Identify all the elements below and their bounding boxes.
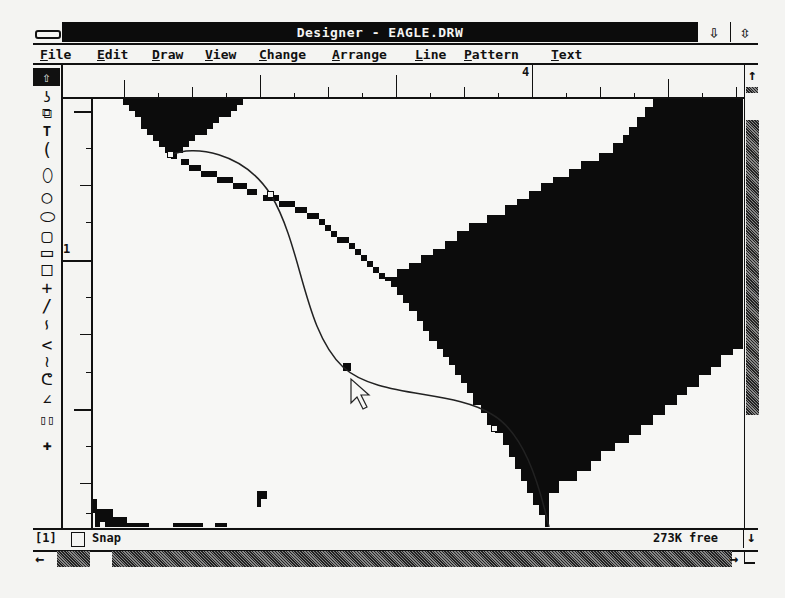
memory-free: 273K free — [653, 531, 718, 545]
tool-line[interactable]: / — [35, 299, 59, 313]
menu-draw[interactable]: Draw — [152, 45, 183, 64]
maximize-button[interactable]: ⇳ — [730, 22, 759, 42]
scroll-up-button[interactable]: ↑ — [745, 65, 759, 85]
tool-ellipse[interactable]: ⬯ — [35, 168, 59, 182]
arrow-left-icon: ← — [35, 550, 44, 568]
menu-file[interactable]: File — [40, 45, 71, 64]
ruler-top: 4 — [62, 65, 742, 97]
menu-bar — [33, 45, 758, 64]
horizontal-scrollbar[interactable]: ← → — [33, 550, 758, 570]
mouse-cursor-icon — [351, 379, 369, 409]
tool-freehand[interactable]: ᕦ — [35, 373, 59, 387]
tool-rounded-rect[interactable]: ⬭ — [35, 210, 59, 224]
ruler-left: 1 — [62, 97, 92, 527]
scroll-left-button[interactable]: ← — [35, 550, 44, 568]
tool-connector[interactable]: ʖ — [35, 90, 59, 104]
up-down-arrow-icon: ⇳ — [740, 22, 750, 42]
ruler-left-label: 1 — [63, 242, 70, 256]
hscroll-track-left[interactable] — [57, 551, 90, 567]
down-arrow-icon: ⇩ — [709, 22, 719, 42]
tool-rectangle[interactable]: ▭ — [35, 245, 59, 259]
arrow-right-icon: → — [729, 550, 738, 568]
scroll-thumb[interactable] — [746, 87, 758, 93]
snap-checkbox[interactable] — [71, 532, 85, 547]
menu-line[interactable]: Line — [415, 45, 446, 64]
tool-zoom[interactable]: ✚ — [35, 438, 59, 452]
tool-group[interactable]: ⧉ — [35, 106, 59, 120]
menu-edit[interactable]: Edit — [97, 45, 128, 64]
size-grip[interactable] — [744, 550, 755, 564]
menu-view[interactable]: View — [205, 45, 236, 64]
tool-polygon[interactable]: ∠ — [35, 393, 59, 407]
arrow-down-icon: ↓ — [746, 528, 755, 546]
tool-circle[interactable]: ○ — [35, 190, 59, 204]
pointer-arrow-icon: ⇧ — [42, 69, 50, 85]
menu-arrange[interactable]: Arrange — [332, 45, 387, 64]
ruler-top-label: 4 — [522, 65, 529, 79]
scroll-right-button[interactable]: → — [729, 550, 738, 568]
vertical-scrollbar[interactable]: ↑ — [744, 65, 759, 530]
menu-pattern[interactable]: Pattern — [464, 45, 519, 64]
hscroll-track[interactable] — [112, 551, 732, 567]
scroll-down-button[interactable]: ↓ — [743, 528, 758, 548]
tool-pointer[interactable]: ⇧ — [33, 68, 60, 86]
system-menu-button[interactable] — [33, 22, 61, 44]
minimize-button[interactable]: ⇩ — [700, 22, 728, 42]
page-indicator: [1] — [35, 531, 57, 545]
system-menu-icon — [35, 30, 61, 39]
scroll-track[interactable] — [746, 120, 759, 415]
arrow-up-icon: ↑ — [747, 66, 756, 84]
eagle-drawing — [93, 99, 743, 527]
tool-cross[interactable]: + — [35, 281, 59, 295]
tool-text[interactable]: T — [35, 124, 59, 138]
tool-bezier[interactable]: ≀ — [35, 355, 59, 369]
drawing-canvas[interactable] — [93, 99, 743, 527]
tool-square[interactable]: □ — [35, 262, 59, 276]
tool-arc[interactable]: ( — [35, 143, 59, 157]
status-bar: [1] Snap 273K free ↓ — [33, 528, 758, 552]
menu-text[interactable]: Text — [551, 45, 582, 64]
tool-polyline[interactable]: < — [35, 338, 59, 352]
tool-double-box[interactable]: ▯▯ — [35, 413, 59, 427]
window-title: Designer - EAGLE.DRW — [62, 22, 698, 42]
snap-label: Snap — [92, 531, 121, 545]
menu-change[interactable]: Change — [259, 45, 306, 64]
